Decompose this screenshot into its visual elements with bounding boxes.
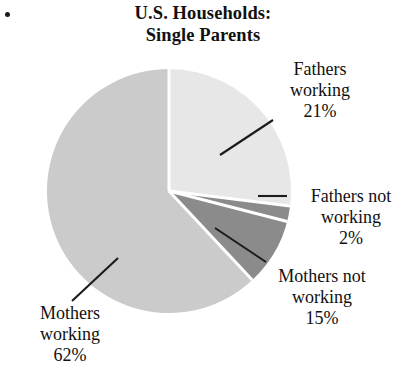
slice-label-fathers-not-working-line-1: Fathers not [292, 186, 410, 207]
slice-label-mothers-working: Mothers working 62% [6, 303, 134, 366]
slice-label-mothers-not-working-line-2: working [252, 287, 392, 308]
slice-label-mothers-working-line-2: working [6, 324, 134, 345]
slice-label-mothers-not-working-value: 15% [252, 308, 392, 329]
slice-label-fathers-working: Fathers working 21% [268, 59, 372, 122]
slice-label-fathers-not-working-value: 2% [292, 228, 410, 249]
slice-label-mothers-working-line-1: Mothers [6, 303, 134, 324]
slice-label-fathers-working-value: 21% [268, 101, 372, 122]
slice-label-mothers-not-working-line-1: Mothers not [252, 266, 392, 287]
slice-label-mothers-working-value: 62% [6, 345, 134, 366]
chart-page: U.S. Households: Single Parents [0, 0, 411, 372]
slice-label-mothers-not-working: Mothers not working 15% [252, 266, 392, 329]
slice-label-fathers-working-line-1: Fathers [268, 59, 372, 80]
slice-label-fathers-not-working-line-2: working [292, 207, 410, 228]
slice-label-fathers-not-working: Fathers not working 2% [292, 186, 410, 249]
slice-label-fathers-working-line-2: working [268, 80, 372, 101]
